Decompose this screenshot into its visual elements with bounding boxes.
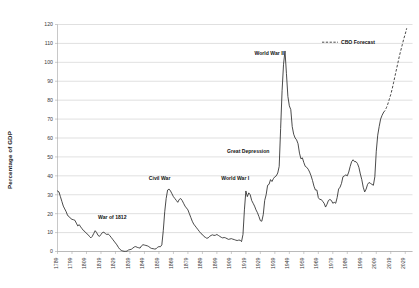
- annotation-label: World War II: [255, 50, 285, 56]
- x-tick-label: 1989: [342, 257, 348, 269]
- y-tick-label: 60: [47, 135, 53, 141]
- x-tick-label: 1939: [270, 257, 276, 269]
- x-tick-label: 1999: [357, 257, 363, 269]
- x-tick-label: 1919: [241, 257, 247, 269]
- y-tick-label: 70: [47, 116, 53, 122]
- x-tick-label: 1929: [255, 257, 261, 269]
- x-tick-label: 1949: [284, 257, 290, 269]
- y-tick-label: 30: [47, 192, 53, 198]
- y-tick-label: 40: [47, 173, 53, 179]
- annotation-label: Great Depression: [227, 148, 269, 154]
- x-tick-label: 1809: [81, 257, 87, 269]
- chart-legend: CBO Forecast: [322, 39, 375, 45]
- x-tick-label: 1959: [299, 257, 305, 269]
- series-line-forecast: [384, 28, 407, 112]
- x-tick-label: 1789: [53, 257, 59, 269]
- x-tick-label: 1849: [139, 257, 145, 269]
- y-tick-label: 0: [50, 248, 53, 254]
- x-tick-label: 1829: [110, 257, 116, 269]
- x-tick-label: 1839: [125, 257, 131, 269]
- x-axis-tick-marks: [58, 252, 406, 255]
- y-axis-tick-labels: 0102030405060708090100110120: [44, 21, 53, 254]
- annotation-label: War of 1812: [98, 214, 127, 220]
- y-axis-title: Percentage of GDP: [6, 131, 13, 189]
- x-tick-label: 1859: [154, 257, 160, 269]
- x-axis-tick-labels: 1789179918091819182918391849185918691879…: [53, 257, 407, 269]
- x-tick-label: 1819: [96, 257, 102, 269]
- x-tick-label: 2019: [386, 257, 392, 269]
- x-tick-label: 1799: [67, 257, 73, 269]
- x-tick-label: 1889: [197, 257, 203, 269]
- gdp-debt-chart: 0102030405060708090100110120 17891799180…: [0, 0, 419, 288]
- x-tick-label: 1979: [328, 257, 334, 269]
- y-tick-label: 50: [47, 154, 53, 160]
- y-tick-label: 80: [47, 97, 53, 103]
- y-tick-label: 110: [45, 40, 53, 46]
- x-tick-label: 1869: [168, 257, 174, 269]
- x-tick-label: 1899: [212, 257, 218, 269]
- y-tick-label: 90: [47, 78, 53, 84]
- legend-label: CBO Forecast: [341, 39, 375, 45]
- x-tick-label: 2009: [371, 257, 377, 269]
- annotation-label: Civil War: [149, 175, 171, 181]
- y-tick-label: 100: [44, 59, 53, 65]
- x-tick-label: 1909: [226, 257, 232, 269]
- y-tick-label: 120: [44, 21, 53, 27]
- annotation-label: World War I: [221, 175, 250, 181]
- x-tick-label: 1879: [183, 257, 189, 269]
- x-tick-label: 2029: [400, 257, 406, 269]
- y-tick-label: 20: [47, 211, 53, 217]
- chart-canvas: 0102030405060708090100110120 17891799180…: [0, 0, 419, 288]
- x-tick-label: 1969: [313, 257, 319, 269]
- y-tick-label: 10: [47, 229, 53, 235]
